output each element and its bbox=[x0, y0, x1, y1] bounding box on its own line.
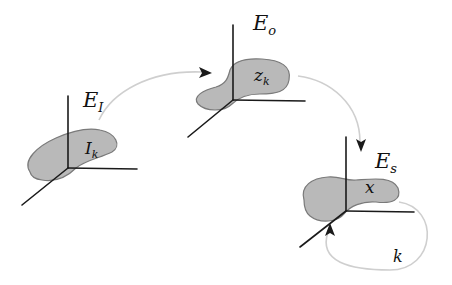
arrow-input-to-latent bbox=[99, 67, 212, 120]
region-input bbox=[28, 129, 117, 181]
space-label-input: EI bbox=[82, 88, 104, 115]
region-state bbox=[303, 177, 399, 221]
frame-input: EI Ik bbox=[22, 88, 137, 205]
arrowhead-icon bbox=[325, 223, 335, 236]
axis-horizontal bbox=[233, 100, 305, 101]
frame-state: Es x bbox=[300, 137, 414, 247]
arrowhead-icon bbox=[356, 139, 366, 152]
axis-horizontal bbox=[346, 211, 414, 212]
space-label-state: Es bbox=[374, 149, 397, 176]
region-label-state: x bbox=[365, 177, 375, 197]
axis-horizontal bbox=[68, 168, 137, 169]
region-latent bbox=[196, 59, 289, 110]
diagram-canvas: EI Ik Eo zk Es x bbox=[0, 0, 452, 285]
arrow-latent-to-state bbox=[298, 76, 366, 152]
space-label-latent: Eo bbox=[252, 11, 276, 38]
loop-label: k bbox=[393, 247, 403, 266]
